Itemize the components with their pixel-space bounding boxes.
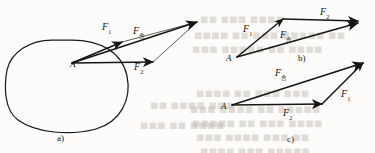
point-label-a-panel-a: A (70, 60, 76, 69)
vector-label-fresultant-panel-c: F合 (275, 68, 287, 81)
subscript-2: 2 (326, 13, 329, 20)
vector-label-f2-panel-b: F2 (320, 7, 329, 19)
figure-root: ■■ ■■■ ■■■■■■■■ ■■ ■■■ ■■■■■ ■■■■■ ■■■■■… (0, 0, 375, 153)
vector-f2-c (232, 104, 322, 105)
subscript-resultant: 合 (281, 75, 287, 81)
subscript-2: 2 (289, 114, 292, 121)
vector-label-f2-panel-c: F2 (283, 108, 292, 120)
vector-label-fresultant-panel-a: F合 (133, 26, 145, 39)
vector-fresultant-b (237, 23, 358, 57)
vector-label-f2-panel-a: F2 (134, 62, 143, 74)
subscript-1: 1 (347, 95, 350, 102)
panel-label-b: b) (298, 53, 306, 63)
force-vector-diagram-svg (0, 0, 375, 153)
panel-label-c: c) (287, 134, 294, 144)
subscript-2: 2 (140, 68, 143, 75)
vector-label-f1-panel-a: F1 (102, 22, 111, 34)
vector-f2-b (283, 19, 358, 21)
panel-label-a: a) (57, 133, 64, 143)
subscript-resultant: 合 (139, 33, 145, 39)
vector-label-f1-panel-c: F1 (341, 89, 350, 101)
subscript-1: 1 (108, 28, 111, 35)
object-outline-blob (5, 40, 128, 133)
point-label-a-panel-c: A (221, 102, 227, 111)
subscript-resultant: 合 (286, 37, 292, 43)
subscript-1: 1 (249, 30, 252, 37)
point-label-a-panel-b: A (226, 54, 232, 63)
vector-label-fresultant-panel-b: F合 (280, 30, 292, 43)
panel-b-vectors (237, 19, 358, 57)
vector-label-f1-panel-b: F1 (243, 24, 252, 36)
